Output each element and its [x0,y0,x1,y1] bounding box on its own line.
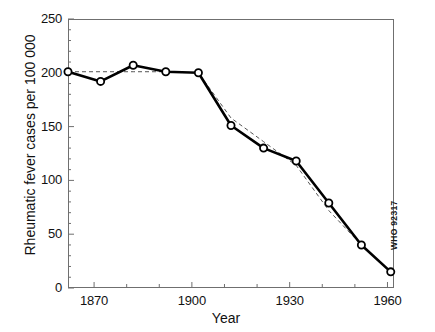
x-axis-minor-ticks [127,284,355,288]
data-point-marker [293,157,300,164]
x-axis-tick-label: 1960 [359,293,415,308]
chart-figure: 050100150200250 1870190019301960 Rheumat… [0,0,435,332]
x-axis-title: Year [196,310,256,326]
data-point-marker [325,199,332,206]
data-point-marker [387,268,394,275]
data-point-marker [64,68,71,75]
x-axis-tick-label-group: 1870190019301960 [0,293,435,311]
series-observed-line [68,65,391,272]
data-point-marker [130,62,137,69]
x-axis-tick-label: 1900 [164,293,220,308]
data-point-marker [97,78,104,85]
y-axis-title: Rheumatic fever cases per 100 000 [22,12,38,278]
data-point-marker [195,69,202,76]
data-point-marker [227,122,234,129]
y-axis-minor-ticks [68,30,71,277]
x-axis-major-ticks [94,282,387,288]
y-axis-major-ticks [68,19,74,288]
series-fitted-trend-line [68,72,391,272]
chart-canvas [0,0,435,332]
series-observed-markers [64,62,394,276]
data-point-marker [358,241,365,248]
who-code-label: WHO 92317 [389,190,399,250]
data-point-marker [260,145,267,152]
x-axis-tick-label: 1870 [66,293,122,308]
x-axis-tick-label: 1930 [262,293,318,308]
data-point-marker [162,68,169,75]
